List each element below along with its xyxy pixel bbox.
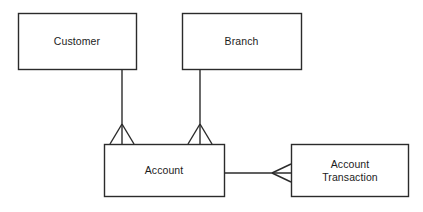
er-diagram-graphics (0, 0, 423, 212)
crows-foot-upper-account-transaction (272, 164, 291, 173)
entity-box-branch[interactable] (183, 14, 302, 70)
entity-box-customer[interactable] (19, 14, 137, 70)
crows-foot-left-customer-account (110, 124, 122, 144)
entity-box-account[interactable] (105, 145, 225, 197)
entity-box-account-transaction[interactable] (292, 145, 409, 197)
crows-foot-right-branch-account (200, 124, 212, 144)
crows-foot-right-customer-account (122, 124, 134, 144)
er-diagram-canvas: Customer Branch Account Account Transact… (0, 0, 423, 212)
crows-foot-lower-account-transaction (272, 173, 291, 182)
crows-foot-left-branch-account (188, 124, 200, 144)
